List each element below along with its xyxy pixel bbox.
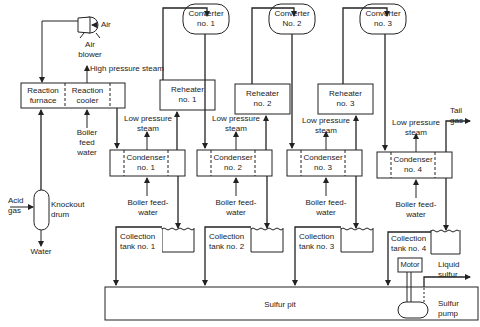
high-pressure-steam-label: High pressure steam (90, 64, 164, 74)
converter-1-label: Converter no. 1 (183, 6, 229, 32)
low-pressure-steam-4-label: Low pressure steam (390, 118, 442, 138)
air-blower-label: Air blower (72, 40, 108, 60)
condenser-3-label: Condenser no. 3 (301, 151, 345, 175)
tail-gas-label: Tail gas (450, 106, 463, 126)
reheater-3-label: Reheater no. 3 (318, 86, 373, 112)
boiler-feed-water-4-label: Boiler feed- water (390, 200, 442, 220)
water-output-label: Water (26, 247, 56, 257)
low-pressure-steam-3-label: Low pressure steam (300, 116, 352, 136)
condenser-1-label: Condenser no. 1 (124, 151, 168, 175)
knockout-drum-label: Knockout drum (51, 200, 84, 220)
converter-3-label: Converter no. 3 (360, 6, 406, 32)
air-input-label: Air (101, 20, 111, 30)
collection-tank-1-label: Collection tank no. 1 (120, 232, 155, 252)
boiler-feed-water-1-label: Boiler feed- water (122, 198, 174, 218)
reheater-1-label: Reheater no. 1 (160, 82, 215, 108)
low-pressure-steam-2-label: Low pressure steam (210, 114, 262, 134)
condenser-2-label: Condenser no. 2 (211, 151, 255, 175)
collection-tank-4-label: Collection tank no. 4 (391, 234, 426, 254)
liquid-sulfur-label: Liquid sulfur (438, 260, 459, 280)
reaction-furnace-label: Reaction furnace (22, 84, 64, 108)
boiler-feed-water-2-label: Boiler feed- water (210, 198, 262, 218)
claus-process-diagram: Air Air blower High pressure steam React… (0, 0, 480, 327)
low-pressure-steam-1-label: Low pressure steam (122, 114, 174, 134)
condenser-4-label: Condenser no. 4 (391, 153, 435, 177)
knockout-drum-icon (34, 190, 49, 230)
converter-2-label: Converter No. 2 (269, 6, 315, 32)
air-blower-icon (78, 17, 100, 38)
collection-tank-3-label: Collection tank no. 3 (299, 232, 334, 252)
boiler-feed-water-furnace-label: Boiler feed water (70, 128, 104, 158)
sulfur-pump-label: Sulfur pump (438, 299, 459, 319)
sulfur-pit-label: Sulfur pit (240, 300, 320, 310)
boiler-feed-water-3-label: Boiler feed- water (300, 198, 352, 218)
motor-label: Motor (398, 259, 422, 271)
collection-tank-2-label: Collection tank no. 2 (209, 232, 244, 252)
acid-gas-label: Acid gas (8, 196, 24, 216)
reaction-cooler-label: Reaction cooler (66, 84, 109, 108)
reheater-2-label: Reheater no. 2 (235, 86, 290, 112)
